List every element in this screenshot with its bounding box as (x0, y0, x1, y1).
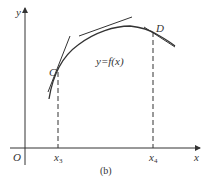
origin-label: O (13, 151, 21, 163)
y-axis-label: y (15, 6, 21, 18)
figure-caption: (b) (100, 165, 112, 177)
x3-tick-label: x3 (53, 151, 63, 165)
function-diagram: y x O C D y=f(x) x3 x4 (b) (0, 0, 211, 183)
curve-label: y=f(x) (95, 55, 124, 68)
point-d-label: D (155, 22, 164, 34)
tangent-at-c (48, 36, 70, 92)
point-c-label: C (49, 66, 57, 78)
x-axis-label: x (193, 151, 199, 163)
x4-tick-label: x4 (148, 151, 158, 165)
